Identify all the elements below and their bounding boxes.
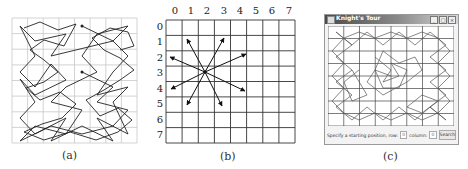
minimize-button[interactable]: _ [430,16,438,24]
start-position-controls: Specify a starting position, row: 0 colu… [327,129,456,141]
caption-b: (b) [220,150,236,163]
column-input[interactable]: 0 [429,131,436,139]
panel-a: (a) [0,0,155,169]
end-point [81,71,84,74]
knight-move-arrows [170,38,246,106]
column-label: column: [409,133,427,138]
start-point [81,25,84,28]
knight-moves-board [150,0,310,169]
tour-path [20,22,134,141]
title-bar[interactable]: Knight's Tour _ □ × [325,15,458,24]
knight-position [203,70,207,74]
panel-b: 0 1 2 3 4 5 6 7 0 1 2 3 4 5 6 7 [150,0,310,169]
maximize-button[interactable]: □ [439,16,447,24]
window-controls: _ □ × [430,16,456,24]
window-title: Knight's Tour [336,14,381,21]
caption-c: (c) [383,150,398,163]
knights-tour-board-a [0,0,155,169]
caption-a: (a) [62,149,77,162]
prompt-label: Specify a starting position, row: [327,133,398,138]
knights-tour-window: Knight's Tour _ □ × [324,14,459,145]
tour-board-canvas [328,26,454,126]
close-button[interactable]: × [448,16,456,24]
tour-board [328,26,454,126]
search-button[interactable]: Search [439,130,456,140]
app-icon [327,16,335,24]
row-input[interactable]: 0 [400,131,407,139]
